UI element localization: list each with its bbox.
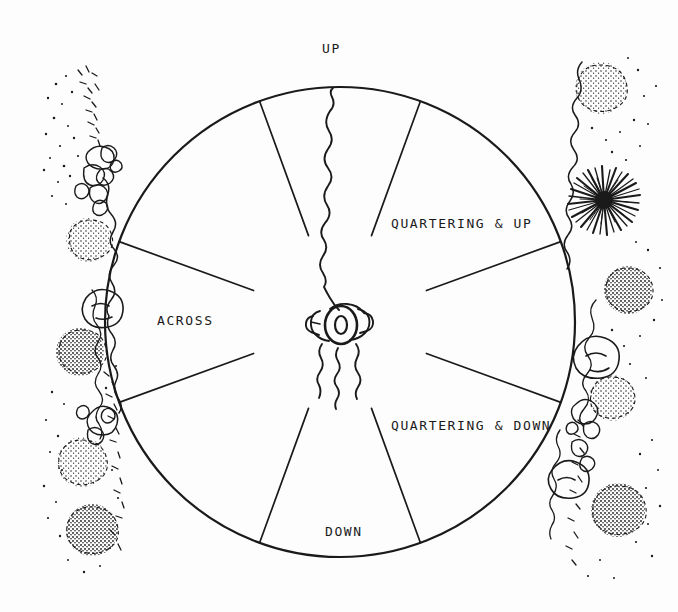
scrub-trail-right xyxy=(566,420,584,565)
cannon-muzzle-ring xyxy=(325,306,357,344)
dark-bush-tree-right xyxy=(568,166,640,235)
cannon-trail-mid xyxy=(335,348,340,409)
stipple-bush-right-3 xyxy=(589,375,635,421)
boulder-right-upper xyxy=(573,336,619,378)
label-quartering-down: QUARTERING & DOWN xyxy=(391,419,551,432)
terrain-sketch-right xyxy=(548,57,663,579)
cannon-barrel-trace xyxy=(320,88,339,310)
divider-70 xyxy=(426,242,560,291)
label-up: UP xyxy=(322,42,341,55)
divider-340 xyxy=(260,101,309,235)
stipple-bush-left-1 xyxy=(66,218,113,262)
divider-290 xyxy=(119,242,253,291)
divider-250 xyxy=(119,354,253,403)
label-down: DOWN xyxy=(325,525,363,538)
scrub-trail-left xyxy=(78,66,100,146)
stipple-bush-left-2 xyxy=(56,328,106,376)
label-quartering-up: QUARTERING & UP xyxy=(391,217,532,230)
cannon-trail-right xyxy=(355,344,360,399)
stipple-bush-right-2 xyxy=(604,266,653,314)
rock-cluster-left xyxy=(75,146,122,216)
stipple-bush-right-1 xyxy=(575,62,627,114)
boulder-left xyxy=(82,290,123,328)
stipple-bush-right-4 xyxy=(591,483,646,537)
cannon-top-view xyxy=(306,88,373,409)
divider-200 xyxy=(260,408,309,542)
cannon-bore xyxy=(335,316,347,334)
stipple-bush-left-3 xyxy=(57,437,107,487)
cannon-trunnion-left-detail xyxy=(311,322,320,324)
terrain-sketch-left xyxy=(43,66,124,573)
label-across: ACROSS xyxy=(157,314,214,327)
cannon-trunnion-left xyxy=(306,316,319,335)
cannon-trail-left xyxy=(317,344,323,398)
divider-110 xyxy=(426,354,560,403)
fire-zone-diagram xyxy=(0,0,678,612)
stream-line-right-c xyxy=(550,430,560,539)
diagram-page: UP QUARTERING & UP ACROSS QUARTERING & D… xyxy=(0,0,678,612)
stipple-dots-left-upper xyxy=(43,75,79,205)
